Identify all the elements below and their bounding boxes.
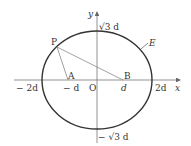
point-A-label: A bbox=[67, 71, 75, 81]
tick-d: d bbox=[121, 83, 127, 93]
point-P-label: P bbox=[51, 37, 57, 47]
point-B-label: B bbox=[124, 71, 131, 81]
tick-neg-sqrt3d: − √3 d bbox=[98, 132, 129, 142]
tick-sqrt3d: √3 d bbox=[99, 22, 119, 32]
y-axis-label: y bbox=[87, 9, 94, 19]
segment-PB bbox=[57, 47, 123, 80]
ellipse-diagram: y x O √3 d − √3 d − 2d − d d 2d P A B E bbox=[0, 0, 191, 146]
tick-neg-d: − d bbox=[63, 83, 79, 93]
x-axis-label: x bbox=[175, 83, 180, 93]
label-E-pointer bbox=[141, 43, 148, 49]
tick-2d: 2d bbox=[155, 83, 167, 93]
origin-label: O bbox=[89, 83, 96, 93]
curve-E-label: E bbox=[148, 38, 156, 48]
tick-neg-2d: − 2d bbox=[16, 83, 38, 93]
